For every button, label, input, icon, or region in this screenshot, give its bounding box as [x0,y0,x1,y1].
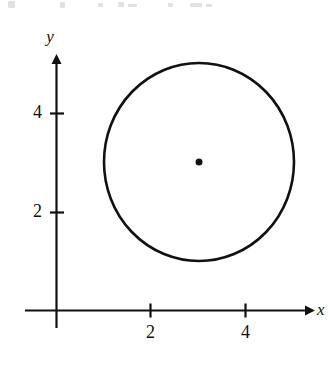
x-tick-group: 2 4 [146,304,250,343]
x-axis-arrow-right-icon [305,306,315,316]
x-axis-label: x [316,300,325,319]
y-tick-label-4: 4 [33,102,42,122]
x-axis-group: x [25,300,325,319]
y-axis-group: y [44,27,61,328]
circle-center-point [196,159,203,166]
y-axis-arrow-up-icon [52,54,62,64]
y-tick-group: 2 4 [33,102,64,221]
x-tick-label-2: 2 [146,322,155,342]
x-tick-label-4: 4 [241,322,250,342]
y-tick-label-2: 2 [33,201,42,221]
y-axis-label: y [44,27,54,46]
figure-container: x y 2 4 2 4 [0,0,335,368]
cartesian-plot: x y 2 4 2 4 [0,0,335,368]
